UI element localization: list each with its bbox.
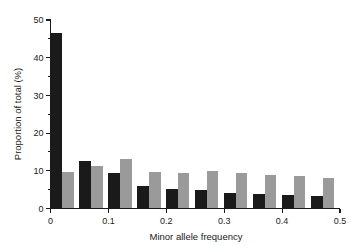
bar-dark-3 [137, 186, 149, 209]
x-tick-label-3: 0.3 [218, 216, 231, 226]
bar-dark-7 [253, 194, 265, 208]
x-tick-label-5: 0.5 [334, 216, 347, 226]
bar-dark-8 [282, 195, 294, 209]
x-tick-label-0: 0 [48, 216, 53, 226]
bar-dark-4 [166, 189, 178, 208]
y-tick-label-5: 50 [33, 15, 43, 25]
y-tick-label-3: 30 [33, 91, 43, 101]
bar-gray-3 [149, 172, 161, 209]
bar-gray-1 [91, 166, 103, 209]
bar-gray-0 [62, 172, 74, 209]
bar-gray-6 [236, 173, 248, 209]
x-tick-label-2: 0.2 [160, 216, 173, 226]
bar-chart-svg: 01020304050 00.10.20.30.40.5 Minor allel… [0, 0, 353, 249]
bar-dark-1 [79, 161, 91, 209]
y-tick-label-1: 10 [33, 166, 43, 176]
bar-gray-8 [294, 176, 306, 208]
y-tick-label-2: 20 [33, 128, 43, 138]
bar-gray-9 [323, 178, 335, 209]
y-tick-label-4: 40 [33, 53, 43, 63]
bar-gray-7 [265, 175, 277, 209]
bar-dark-9 [311, 196, 323, 208]
bar-gray-4 [178, 173, 190, 208]
y-tick-label-0: 0 [38, 204, 43, 214]
bar-gray-5 [207, 171, 219, 209]
x-tick-label-4: 0.4 [276, 216, 289, 226]
bar-dark-5 [195, 190, 207, 208]
bar-dark-2 [108, 173, 120, 209]
bar-dark-0 [51, 33, 63, 208]
bar-gray-2 [120, 159, 132, 208]
x-tick-label-1: 0.1 [102, 216, 115, 226]
bar-dark-6 [224, 193, 236, 209]
chart-figure: 01020304050 00.10.20.30.40.5 Minor allel… [0, 0, 353, 249]
x-axis-title: Minor allele frequency [150, 231, 243, 242]
y-axis-title: Proportion of total (%) [12, 68, 23, 160]
